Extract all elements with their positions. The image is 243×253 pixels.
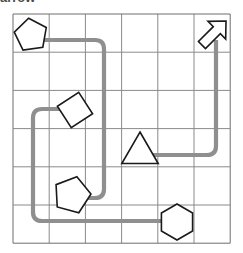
diamond-middle-left [57, 92, 92, 127]
triangle-middle [122, 132, 158, 164]
hexagon-bottom [161, 204, 192, 240]
arrow-top-right [198, 21, 226, 49]
path-segment-triangle-to-arrow [146, 40, 216, 155]
grid-and-shapes-svg [0, 0, 243, 253]
pentagon-top-left [14, 18, 46, 50]
grid [13, 14, 230, 243]
diagram-canvas: arrow [0, 0, 243, 253]
